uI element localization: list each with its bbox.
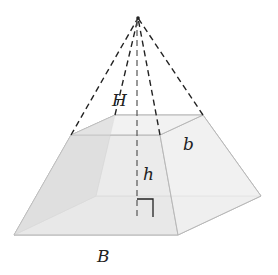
label-frustum-height: h <box>143 164 154 184</box>
apex-point <box>136 16 140 20</box>
label-apex-height: H <box>111 90 128 110</box>
frustum-diagram: H h b B <box>0 0 278 275</box>
right-face <box>160 115 261 235</box>
label-bottom-base: B <box>96 246 110 266</box>
label-top-base: b <box>183 134 194 154</box>
lateral-edge-extension-back-right <box>138 18 203 115</box>
